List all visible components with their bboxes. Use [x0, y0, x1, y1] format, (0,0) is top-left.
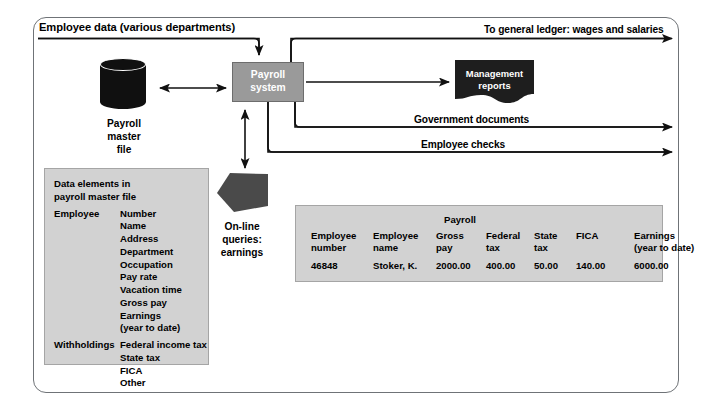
column-header: Earnings (year to date)	[634, 230, 713, 255]
data-group-withholdings: Withholdings Federal income tax State ta…	[54, 339, 208, 390]
employee-checks-label: Employee checks	[421, 139, 505, 150]
table-column-gross-pay: Gross pay 2000.00	[436, 230, 486, 272]
payroll-record-table: Payroll Employee number 46848 Employee n…	[295, 205, 663, 282]
list-item: Name	[120, 220, 182, 233]
government-documents-label: Government documents	[414, 114, 529, 125]
column-header: State tax	[534, 230, 576, 255]
column-header: Employee number	[311, 230, 373, 255]
table-grid: Employee number 46848 Employee name Stok…	[311, 230, 713, 272]
data-group-name: Withholdings	[54, 339, 120, 390]
table-cell: 46848	[311, 260, 373, 272]
list-item: Vacation time	[120, 284, 182, 297]
table-cell: Stoker, K.	[373, 260, 436, 272]
payroll-group-header: Payroll	[444, 214, 476, 225]
list-item: (year to date)	[120, 322, 182, 335]
online-queries-line-1: On-line	[196, 221, 288, 234]
general-ledger-label: To general ledger: wages and salaries	[484, 24, 664, 35]
table-column-fica: FICA 140.00	[576, 230, 634, 272]
table-cell: 140.00	[576, 260, 634, 272]
table-column-employee-name: Employee name Stoker, K.	[373, 230, 436, 272]
list-item: Gross pay	[120, 297, 182, 310]
online-queries-node	[216, 173, 268, 215]
data-elements-heading-line-1: Data elements in	[54, 178, 208, 191]
online-queries-line-3: earnings	[196, 247, 288, 260]
list-item: State tax	[120, 352, 207, 365]
table-cell: 6000.00	[634, 260, 713, 272]
data-group-items: Number Name Address Department Occupatio…	[120, 208, 182, 336]
list-item: Department	[120, 246, 182, 259]
table-column-federal-tax: Federal tax 400.00	[486, 230, 534, 272]
diagram-canvas: Employee data (various departments) To g…	[0, 0, 713, 418]
data-elements-heading-line-2: payroll master file	[54, 191, 208, 204]
column-header: Employee name	[373, 230, 436, 255]
management-reports-label: Management reports	[455, 68, 534, 92]
data-elements-panel: Data elements in payroll master file Emp…	[44, 168, 209, 365]
management-reports-line-1: Management	[455, 68, 534, 80]
management-reports-line-2: reports	[455, 80, 534, 92]
list-item: Other	[120, 377, 207, 390]
list-item: FICA	[120, 365, 207, 378]
table-column-employee-number: Employee number 46848	[311, 230, 373, 272]
table-cell: 50.00	[534, 260, 576, 272]
pentagon-display-icon	[216, 173, 268, 215]
data-group-items: Federal income tax State tax FICA Other	[120, 339, 207, 390]
list-item: Pay rate	[120, 271, 182, 284]
cylinder-database-icon	[100, 58, 146, 111]
table-column-earnings: Earnings (year to date) 6000.00	[634, 230, 713, 272]
list-item: Occupation	[120, 259, 182, 272]
list-item: Number	[120, 208, 182, 221]
data-group-employee: Employee Number Name Address Department …	[54, 208, 208, 336]
cylinder-top-ellipse	[100, 58, 146, 71]
payroll-system-node: Payroll system	[232, 62, 304, 102]
master-file-line-1: Payroll	[78, 118, 170, 131]
column-header: FICA	[576, 230, 634, 255]
payroll-system-line-1: Payroll	[251, 69, 285, 82]
table-cell: 2000.00	[436, 260, 486, 272]
column-header: Gross pay	[436, 230, 486, 255]
management-reports-node: Management reports	[455, 60, 534, 103]
online-queries-line-2: queries:	[196, 234, 288, 247]
table-column-state-tax: State tax 50.00	[534, 230, 576, 272]
table-cell: 400.00	[486, 260, 534, 272]
list-item: Address	[120, 233, 182, 246]
payroll-master-file-label: Payroll master file	[78, 118, 170, 157]
list-item: Federal income tax	[120, 339, 207, 352]
column-header: Federal tax	[486, 230, 534, 255]
payroll-system-line-2: system	[250, 82, 286, 95]
data-elements-heading: Data elements in payroll master file	[54, 178, 208, 204]
master-file-line-3: file	[78, 144, 170, 157]
data-group-name: Employee	[54, 208, 120, 336]
master-file-line-2: master	[78, 131, 170, 144]
list-item: Earnings	[120, 310, 182, 323]
employee-data-caption: Employee data (various departments)	[38, 21, 237, 34]
online-queries-label: On-line queries: earnings	[196, 221, 288, 260]
